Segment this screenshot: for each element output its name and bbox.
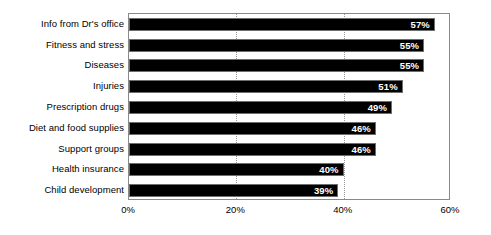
bar-value-label: 57% <box>129 18 430 31</box>
category-axis: Info from Dr's officeFitness and stressD… <box>0 13 124 200</box>
bar-chart: Info from Dr's officeFitness and stressD… <box>0 0 491 235</box>
bar-value-label: 46% <box>129 143 371 156</box>
x-tick-label: 40% <box>333 204 352 215</box>
bar-value-label: 55% <box>129 39 419 52</box>
bar-value-label: 40% <box>129 163 339 176</box>
bar-row: 46% <box>129 122 450 135</box>
bar-value-label: 49% <box>129 101 387 114</box>
bar-row: 57% <box>129 18 450 31</box>
category-label: Health insurance <box>0 163 124 174</box>
category-label: Child development <box>0 184 124 195</box>
bar-value-label: 55% <box>129 59 419 72</box>
bar-value-label: 46% <box>129 122 371 135</box>
category-label: Diseases <box>0 59 124 70</box>
bar-row: 40% <box>129 163 450 176</box>
category-label: Injuries <box>0 80 124 91</box>
plot-area: 57%55%55%51%49%46%46%40%39% <box>128 13 450 200</box>
x-tick-label: 60% <box>440 204 459 215</box>
category-label: Fitness and stress <box>0 39 124 50</box>
bar-row: 51% <box>129 80 450 93</box>
bar-row: 39% <box>129 184 450 197</box>
bar-row: 55% <box>129 39 450 52</box>
category-label: Info from Dr's office <box>0 18 124 29</box>
x-axis: 0%20%40%60% <box>128 201 450 221</box>
bar-row: 49% <box>129 101 450 114</box>
bar-value-label: 51% <box>129 80 398 93</box>
category-label: Support groups <box>0 143 124 154</box>
x-tick-label: 0% <box>121 204 135 215</box>
x-tick-label: 20% <box>226 204 245 215</box>
bar-row: 46% <box>129 143 450 156</box>
bar-value-label: 39% <box>129 184 333 197</box>
bar-row: 55% <box>129 59 450 72</box>
category-label: Prescription drugs <box>0 101 124 112</box>
category-label: Diet and food supplies <box>0 122 124 133</box>
